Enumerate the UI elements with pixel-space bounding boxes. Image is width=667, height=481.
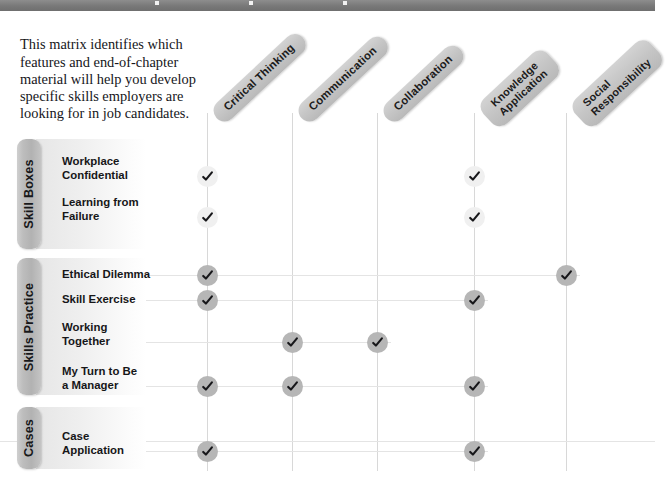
- column-header-critical-thinking[interactable]: Critical Thinking: [209, 30, 310, 126]
- group-tab-label: Skills Practice: [22, 282, 36, 370]
- check-icon: [197, 166, 218, 187]
- check-icon: [197, 207, 218, 228]
- check-icon: [197, 441, 218, 462]
- group-tab-label: Skill Boxes: [22, 159, 36, 228]
- row-rail-my-turn-to-be-a-manager: [140, 386, 488, 387]
- row-label-working-together: Working Together: [62, 321, 110, 348]
- check-icon: [464, 166, 485, 187]
- row-rail-working-together: [140, 342, 391, 343]
- group-tab-cases[interactable]: Cases: [17, 407, 41, 469]
- column-header-knowledge-application[interactable]: KnowledgeApplication: [476, 46, 563, 130]
- column-header-label: Collaboration: [391, 53, 455, 114]
- check-icon: [464, 441, 485, 462]
- column-rail-social-responsibility: [566, 113, 567, 471]
- row-label-learning-from-failure: Learning from Failure: [62, 196, 139, 223]
- group-tab-label: Cases: [22, 419, 36, 457]
- row-label-ethical-dilemma: Ethical Dilemma: [62, 268, 150, 282]
- column-header-label: Critical Thinking: [221, 41, 297, 113]
- check-icon: [197, 290, 218, 311]
- check-icon: [282, 376, 303, 397]
- column-rail-communication: [292, 113, 293, 471]
- check-icon: [464, 290, 485, 311]
- row-rail-skill-exercise: [140, 300, 488, 301]
- column-header-communication[interactable]: Communication: [294, 32, 392, 126]
- check-icon: [197, 376, 218, 397]
- row-label-skill-exercise: Skill Exercise: [62, 293, 135, 307]
- row-label-workplace-confidential: Workplace Confidential: [62, 155, 128, 182]
- row-label-my-turn-to-be-a-manager: My Turn to Be a Manager: [62, 365, 137, 392]
- row-label-case-application: Case Application: [62, 430, 124, 457]
- column-header-label: Communication: [306, 44, 379, 113]
- column-header-collaboration[interactable]: Collaboration: [379, 41, 468, 126]
- row-rail-case-application: [140, 451, 488, 452]
- group-tab-skill-boxes[interactable]: Skill Boxes: [17, 139, 41, 249]
- check-icon: [197, 265, 218, 286]
- check-icon: [464, 376, 485, 397]
- check-icon: [556, 265, 577, 286]
- column-rail-collaboration: [377, 113, 378, 471]
- group-tab-skills-practice[interactable]: Skills Practice: [17, 258, 41, 395]
- column-header-social-responsibility[interactable]: SocialResponsibility: [568, 36, 667, 131]
- check-icon: [282, 332, 303, 353]
- check-icon: [464, 207, 485, 228]
- check-icon: [367, 332, 388, 353]
